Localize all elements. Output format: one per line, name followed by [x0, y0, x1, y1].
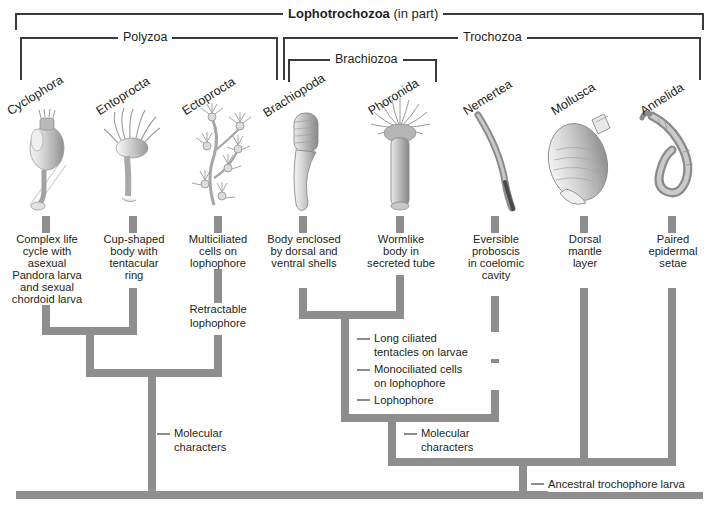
branch-label-molecular-characters-trochozoa: Molecular characters [421, 427, 511, 454]
character-label-entoprocta: Cup-shaped body with tentacular ring [94, 233, 174, 281]
branch-label-lophophore: Lophophore [374, 394, 484, 408]
branch-label-ancestral-trochophore-larva: Ancestral trochophore larva [548, 478, 717, 492]
clade-label-lophotrochozoa-bold: Lophotrochozoa [288, 6, 390, 21]
character-label-nemertea: Eversible proboscis in coelomic cavity [457, 233, 535, 281]
character-label-mollusca: Dorsal mantle layer [551, 233, 619, 269]
clade-label-trochozoa: Trochozoa [458, 30, 527, 44]
branch-label-monociliated-cells: Monociliated cells on lophophore [374, 363, 514, 390]
character-label-cycliophora: Complex life cycle with asexual Pandora … [4, 233, 90, 305]
clade-label-brachiozoa: Brachiozoa [330, 52, 403, 66]
branch-label-long-ciliated-tentacles: Long ciliated tentacles on larvae [374, 332, 514, 359]
clade-label-lophotrochozoa-rest: (in part) [390, 6, 438, 21]
clade-label-lophotrochozoa: Lophotrochozoa (in part) [283, 6, 443, 21]
branch-label-retractable-lophophore: Retractable lophophore [176, 303, 260, 330]
phylogenetic-tree-figure: Lophotrochozoa (in part) Polyzoa Trochoz… [0, 0, 717, 515]
character-label-brachiopoda: Body enclosed by dorsal and ventral shel… [259, 233, 349, 269]
branch-label-molecular-characters-polyzoa: Molecular characters [174, 427, 264, 454]
clade-label-polyzoa: Polyzoa [118, 30, 172, 44]
character-label-ectoprocta: Multiciliated cells on lophophore [176, 233, 260, 269]
character-label-annelida: Paired epidermal setae [638, 233, 708, 269]
character-label-phoronida: Wormlike body in secreted tube [358, 233, 444, 269]
